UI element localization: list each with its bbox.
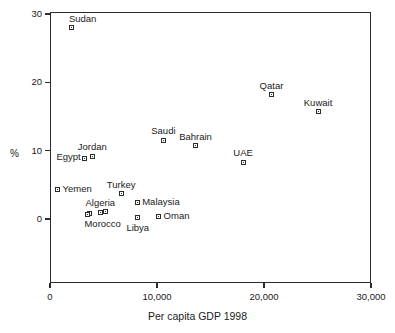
data-point-label: Yemen — [62, 184, 91, 194]
data-point-label: Bahrain — [179, 132, 212, 142]
data-point-marker[interactable] — [55, 187, 60, 192]
data-point-label: Saudi — [151, 126, 175, 136]
y-tick-label: 30 — [20, 9, 42, 19]
x-tick-mark — [263, 283, 264, 288]
data-point-marker[interactable] — [69, 25, 74, 30]
data-point-label: Kuwait — [304, 98, 333, 108]
x-axis-label: Per capita GDP 1998 — [0, 310, 395, 322]
data-point-label: Sudan — [69, 14, 96, 24]
x-tick-label: 10,000 — [142, 292, 171, 302]
data-point-marker[interactable] — [241, 160, 246, 165]
data-point-label: Oman — [164, 211, 190, 221]
data-point-marker[interactable] — [316, 109, 321, 114]
data-point-marker[interactable] — [90, 154, 95, 159]
data-point-marker[interactable] — [85, 212, 90, 217]
data-point-label: Egypt — [56, 152, 80, 162]
data-point-marker[interactable] — [103, 209, 108, 214]
data-point-marker[interactable] — [119, 191, 124, 196]
x-tick-mark — [156, 283, 157, 288]
data-points-layer: SudanQatarKuwaitSaudiBahrainUAEJordanEgy… — [50, 12, 371, 283]
data-point-marker[interactable] — [193, 143, 198, 148]
data-point-label: Malaysia — [142, 197, 180, 207]
data-point-marker[interactable] — [269, 92, 274, 97]
y-axis-label: % — [10, 148, 19, 159]
scatter-chart-figure: 0102030010,00020,00030,000 SudanQatarKuw… — [0, 0, 395, 333]
x-tick-label: 30,000 — [356, 292, 385, 302]
data-point-label: Qatar — [260, 81, 284, 91]
data-point-marker[interactable] — [161, 138, 166, 143]
y-tick-label: 20 — [20, 77, 42, 87]
data-point-marker[interactable] — [135, 215, 140, 220]
x-tick-mark — [49, 283, 50, 288]
x-tick-label: 0 — [47, 292, 52, 302]
data-point-label: UAE — [233, 148, 253, 158]
y-tick-label: 0 — [20, 214, 42, 224]
data-point-marker[interactable] — [156, 214, 161, 219]
data-point-marker[interactable] — [135, 200, 140, 205]
data-point-label: Morocco — [84, 219, 120, 229]
data-point-label: Algeria — [85, 198, 115, 208]
data-point-label: Jordan — [78, 142, 107, 152]
data-point-label: Turkey — [107, 180, 136, 190]
x-tick-label: 20,000 — [249, 292, 278, 302]
data-point-label: Libya — [126, 223, 149, 233]
y-tick-label: 10 — [20, 146, 42, 156]
data-point-marker[interactable] — [82, 156, 87, 161]
x-tick-mark — [370, 283, 371, 288]
